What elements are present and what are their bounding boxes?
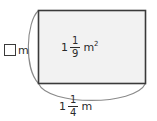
area-unit-text: m bbox=[83, 41, 94, 54]
height-unit: m bbox=[18, 45, 29, 56]
height-answer-box[interactable] bbox=[4, 44, 16, 56]
math-figure-rectangle-area: 1 1 9 m2 1 1 4 m m bbox=[0, 0, 157, 121]
width-whole-number: 1 bbox=[59, 101, 66, 112]
width-fraction-numerator: 1 bbox=[68, 95, 78, 106]
width-unit: m bbox=[81, 101, 92, 112]
area-fraction-denominator: 9 bbox=[70, 48, 80, 59]
width-fraction: 1 4 bbox=[68, 95, 78, 118]
width-fraction-denominator: 4 bbox=[68, 107, 78, 118]
area-fraction-numerator: 1 bbox=[70, 36, 80, 47]
area-unit: m2 bbox=[83, 42, 98, 53]
area-whole-number: 1 bbox=[61, 42, 68, 53]
area-fraction: 1 9 bbox=[70, 36, 80, 59]
width-label: 1 1 4 m bbox=[59, 95, 92, 118]
area-label: 1 1 9 m2 bbox=[61, 36, 99, 59]
area-unit-exponent: 2 bbox=[94, 40, 98, 48]
height-label: m bbox=[4, 44, 29, 56]
height-brace-arc bbox=[28, 11, 38, 84]
